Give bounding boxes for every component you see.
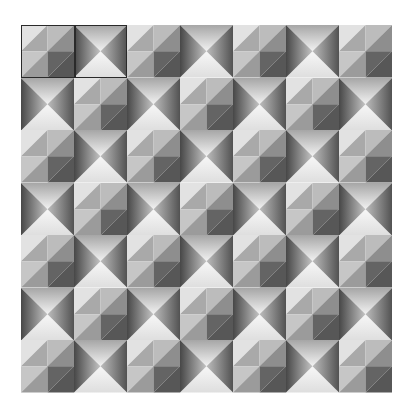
pyramid-pattern-icon <box>180 78 233 131</box>
x-tile[interactable] <box>127 78 180 131</box>
pyramid-tile[interactable] <box>21 235 74 288</box>
pyramid-pattern-icon <box>180 288 233 341</box>
pyramid-tile[interactable] <box>180 183 233 236</box>
x-pattern-icon <box>21 288 74 341</box>
pyramid-pattern-icon <box>233 340 286 393</box>
selection-divider <box>74 26 76 77</box>
x-tile[interactable] <box>21 288 74 341</box>
x-tile[interactable] <box>74 130 127 183</box>
pyramid-pattern-icon <box>21 130 74 183</box>
pyramid-tile[interactable] <box>127 130 180 183</box>
pyramid-tile[interactable] <box>286 288 339 341</box>
x-tile[interactable] <box>21 78 74 131</box>
x-pattern-icon <box>74 235 127 288</box>
pyramid-tile[interactable] <box>233 340 286 393</box>
x-tile[interactable] <box>286 25 339 78</box>
pyramid-tile[interactable] <box>74 288 127 341</box>
pyramid-pattern-icon <box>127 25 180 78</box>
x-tile[interactable] <box>180 340 233 393</box>
x-pattern-icon <box>74 130 127 183</box>
pyramid-tile[interactable] <box>21 340 74 393</box>
pyramid-pattern-icon <box>286 183 339 236</box>
x-pattern-icon <box>180 25 233 78</box>
pyramid-tile[interactable] <box>127 340 180 393</box>
x-tile[interactable] <box>286 235 339 288</box>
pyramid-pattern-icon <box>233 235 286 288</box>
x-pattern-icon <box>21 78 74 131</box>
x-tile[interactable] <box>180 235 233 288</box>
pyramid-pattern-icon <box>339 25 392 78</box>
x-tile[interactable] <box>339 288 392 341</box>
x-pattern-icon <box>21 183 74 236</box>
x-pattern-icon <box>233 183 286 236</box>
x-pattern-icon <box>127 78 180 131</box>
pyramid-tile[interactable] <box>74 78 127 131</box>
tile-canvas <box>0 0 411 412</box>
pyramid-pattern-icon <box>127 130 180 183</box>
pyramid-pattern-icon <box>286 78 339 131</box>
x-tile[interactable] <box>127 288 180 341</box>
x-pattern-icon <box>180 130 233 183</box>
pyramid-pattern-icon <box>233 130 286 183</box>
x-tile[interactable] <box>339 78 392 131</box>
pyramid-tile[interactable] <box>127 235 180 288</box>
x-tile[interactable] <box>74 340 127 393</box>
x-tile[interactable] <box>286 130 339 183</box>
pyramid-tile[interactable] <box>180 288 233 341</box>
tile-grid <box>21 25 392 393</box>
x-tile[interactable] <box>339 183 392 236</box>
pyramid-pattern-icon <box>233 25 286 78</box>
x-tile[interactable] <box>286 340 339 393</box>
pyramid-pattern-icon <box>127 340 180 393</box>
pyramid-pattern-icon <box>180 183 233 236</box>
pyramid-tile[interactable] <box>74 183 127 236</box>
x-tile[interactable] <box>233 183 286 236</box>
x-pattern-icon <box>339 78 392 131</box>
x-pattern-icon <box>339 183 392 236</box>
pyramid-tile[interactable] <box>339 235 392 288</box>
x-pattern-icon <box>286 340 339 393</box>
pyramid-tile[interactable] <box>339 130 392 183</box>
x-tile[interactable] <box>74 235 127 288</box>
pyramid-pattern-icon <box>74 288 127 341</box>
pyramid-tile[interactable] <box>339 25 392 78</box>
pyramid-tile[interactable] <box>180 78 233 131</box>
pyramid-pattern-icon <box>339 235 392 288</box>
pyramid-tile[interactable] <box>233 25 286 78</box>
x-pattern-icon <box>74 340 127 393</box>
pyramid-tile[interactable] <box>21 130 74 183</box>
x-pattern-icon <box>127 183 180 236</box>
x-pattern-icon <box>180 340 233 393</box>
pyramid-pattern-icon <box>74 183 127 236</box>
x-tile[interactable] <box>233 288 286 341</box>
x-tile[interactable] <box>180 130 233 183</box>
x-pattern-icon <box>339 288 392 341</box>
pyramid-pattern-icon <box>74 78 127 131</box>
pyramid-tile[interactable] <box>233 235 286 288</box>
pyramid-tile[interactable] <box>127 25 180 78</box>
x-pattern-icon <box>233 288 286 341</box>
pyramid-pattern-icon <box>339 130 392 183</box>
pyramid-pattern-icon <box>21 340 74 393</box>
pyramid-pattern-icon <box>286 288 339 341</box>
pyramid-tile[interactable] <box>286 183 339 236</box>
x-pattern-icon <box>286 235 339 288</box>
pyramid-tile[interactable] <box>339 340 392 393</box>
x-pattern-icon <box>127 288 180 341</box>
x-pattern-icon <box>233 78 286 131</box>
pyramid-tile[interactable] <box>233 130 286 183</box>
x-tile[interactable] <box>233 78 286 131</box>
pyramid-tile[interactable] <box>286 78 339 131</box>
x-pattern-icon <box>286 25 339 78</box>
x-tile[interactable] <box>127 183 180 236</box>
x-tile[interactable] <box>180 25 233 78</box>
selection-box[interactable] <box>21 25 127 78</box>
x-pattern-icon <box>286 130 339 183</box>
pyramid-pattern-icon <box>339 340 392 393</box>
x-tile[interactable] <box>21 183 74 236</box>
x-pattern-icon <box>180 235 233 288</box>
pyramid-pattern-icon <box>127 235 180 288</box>
pyramid-pattern-icon <box>21 235 74 288</box>
